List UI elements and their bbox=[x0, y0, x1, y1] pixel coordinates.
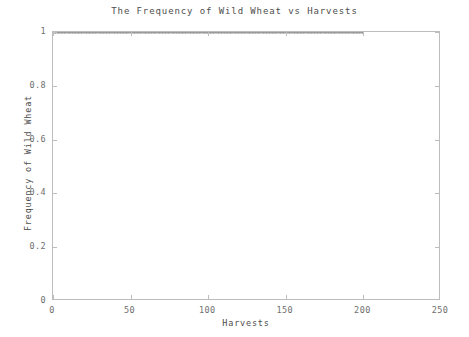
y-axis-tick-right bbox=[435, 140, 439, 141]
y-axis-tick-label: 0.8 bbox=[29, 80, 46, 90]
x-axis-tick-top bbox=[363, 32, 364, 36]
x-axis-tick-top bbox=[208, 32, 209, 36]
x-axis-tick bbox=[208, 295, 209, 299]
y-axis-tick bbox=[53, 140, 57, 141]
y-axis-tick-right bbox=[435, 86, 439, 87]
x-axis-tick-label: 50 bbox=[124, 305, 135, 315]
x-axis-tick-labels: 050100150200250 bbox=[52, 305, 440, 319]
x-axis-tick-top bbox=[286, 32, 287, 36]
plot-inner bbox=[53, 32, 439, 299]
x-axis-tick-label: 100 bbox=[199, 305, 216, 315]
y-axis-tick-label: 0.4 bbox=[29, 187, 46, 197]
y-axis-tick bbox=[53, 86, 57, 87]
y-axis-tick-label: 0 bbox=[40, 295, 46, 305]
y-axis-tick-label: 0.6 bbox=[29, 134, 46, 144]
chart-figure: The Frequency of Wild Wheat vs Harvests … bbox=[0, 0, 469, 337]
x-axis-tick-top bbox=[53, 32, 54, 36]
y-axis-tick-right bbox=[435, 193, 439, 194]
y-axis-tick-label: 0.2 bbox=[29, 241, 46, 251]
x-axis-tick-label: 200 bbox=[354, 305, 371, 315]
x-axis-tick-label: 150 bbox=[277, 305, 294, 315]
y-axis-tick-labels: 00.20.40.60.81 bbox=[0, 31, 46, 300]
y-axis-tick-right bbox=[435, 247, 439, 248]
x-axis-tick bbox=[53, 295, 54, 299]
x-axis-tick-label: 0 bbox=[49, 305, 55, 315]
data-series-wild-wheat bbox=[53, 32, 439, 299]
y-axis-tick bbox=[53, 247, 57, 248]
x-axis-tick-label: 250 bbox=[432, 305, 449, 315]
x-axis-tick bbox=[286, 295, 287, 299]
chart-title: The Frequency of Wild Wheat vs Harvests bbox=[0, 6, 469, 16]
y-axis-tick-right bbox=[435, 32, 439, 33]
y-axis-tick bbox=[53, 193, 57, 194]
y-axis-tick-label: 1 bbox=[40, 26, 46, 36]
plot-area bbox=[52, 31, 440, 300]
x-axis-tick bbox=[363, 295, 364, 299]
x-axis-title: Harvests bbox=[52, 318, 440, 328]
x-axis-tick bbox=[131, 295, 132, 299]
x-axis-tick-top bbox=[131, 32, 132, 36]
